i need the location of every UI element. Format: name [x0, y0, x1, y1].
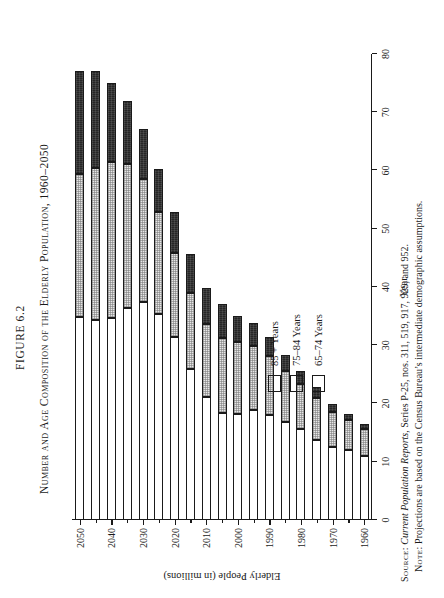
- value-axis-tick: [372, 461, 377, 462]
- bar-segment: [154, 314, 163, 520]
- bar-segment: [296, 429, 305, 520]
- bar-row: [281, 54, 290, 520]
- value-axis-tick-label: 60: [380, 166, 391, 176]
- bar-segment: [233, 414, 242, 520]
- category-axis-tick: [333, 520, 334, 525]
- bar-row: [139, 54, 148, 520]
- bar-segment: [186, 293, 195, 369]
- bar-segment: [139, 302, 148, 520]
- bar-row: [154, 54, 163, 520]
- bar-row: [123, 54, 132, 520]
- bar-segment: [360, 429, 369, 456]
- bar-segment: [139, 179, 148, 302]
- bar-row: [91, 54, 100, 520]
- note-line: Note: Projections are based on the Censu…: [412, 12, 426, 582]
- bar-segment: [170, 337, 179, 520]
- figure-title: Number and Age Composition of the Elderl…: [38, 144, 50, 494]
- source-detail: Series P-25, nos. 311, 519, 917, 929, an…: [399, 244, 410, 430]
- category-axis-tick: [364, 520, 365, 525]
- source-line: Source: Current Population Reports, Seri…: [398, 12, 412, 582]
- value-axis-tick: [372, 286, 377, 287]
- bar-segment: [281, 422, 290, 520]
- bar-row: [328, 54, 337, 520]
- bar-segment: [139, 129, 148, 179]
- bar-segment: [91, 168, 100, 320]
- category-axis-tick: [348, 520, 349, 523]
- value-axis-tick: [372, 402, 377, 403]
- chart-plot-area: 80706050403020100 1960197019801990200020…: [72, 54, 372, 520]
- bar-segment: [186, 254, 195, 292]
- source-label: Source:: [399, 547, 410, 582]
- bar-segment: [218, 338, 227, 413]
- bar-row: [202, 54, 211, 520]
- bar-segment: [107, 318, 116, 520]
- value-axis-tick-label: 50: [380, 224, 391, 234]
- bar-segment: [123, 308, 132, 520]
- y-axis-title: Elderly People (in millions): [164, 571, 281, 582]
- bar-segment: [123, 164, 132, 308]
- value-axis-tick-label: 80: [380, 49, 391, 59]
- bar-segment: [360, 424, 369, 429]
- bar-row: [249, 54, 258, 520]
- bar-row: [75, 54, 84, 520]
- bar-row: [233, 54, 242, 520]
- bar-segment: [154, 169, 163, 212]
- bar-segment: [249, 323, 258, 346]
- bar-segment: [186, 369, 195, 520]
- bar-segment: [107, 162, 116, 318]
- bar-segment: [249, 346, 258, 411]
- category-axis-tick: [285, 520, 286, 523]
- value-axis-tick: [372, 111, 377, 112]
- category-axis-tick-label: 1970: [327, 528, 338, 548]
- value-axis-tick-label: 40: [380, 282, 391, 292]
- bar-segment: [265, 415, 274, 520]
- bar-segment: [344, 450, 353, 520]
- legend-label: 85 + Years: [269, 321, 280, 366]
- legend-item: 75–84 Years: [290, 314, 303, 392]
- legend-item: 65–74 Years: [312, 314, 325, 392]
- bar-row: [312, 54, 321, 520]
- category-axis-tick: [222, 520, 223, 523]
- bar-row: [265, 54, 274, 520]
- bar-row: [218, 54, 227, 520]
- bar-row: [344, 54, 353, 520]
- bar-segment: [75, 174, 84, 317]
- category-axis-tick-label: 1990: [264, 528, 275, 548]
- source-title: Current Population Reports,: [399, 430, 410, 544]
- category-axis-tick-label: 2040: [106, 528, 117, 548]
- value-axis-tick: [372, 519, 377, 520]
- category-axis-tick-label: 2030: [138, 528, 149, 548]
- bar-segment: [170, 253, 179, 337]
- legend-swatch: [312, 375, 325, 392]
- bar-segment: [75, 317, 84, 520]
- value-axis-tick: [372, 228, 377, 229]
- category-axis-tick-label: 2020: [169, 528, 180, 548]
- bar-segment: [312, 440, 321, 520]
- bar-segment: [202, 288, 211, 324]
- figure-notes: Source: Current Population Reports, Seri…: [398, 12, 426, 582]
- bar-segment: [328, 412, 337, 448]
- category-axis-tick: [96, 520, 97, 523]
- value-axis-tick-label: 70: [380, 107, 391, 117]
- category-axis-tick: [143, 520, 144, 525]
- bar-segment: [91, 320, 100, 520]
- figure-page: FIGURE 6.2 Number and Age Composition of…: [0, 0, 444, 598]
- bar-row: [186, 54, 195, 520]
- category-axis-tick: [190, 520, 191, 523]
- bar-segment: [170, 212, 179, 253]
- category-axis-tick: [269, 520, 270, 525]
- category-axis-tick: [111, 520, 112, 525]
- legend-label: 65–74 Years: [313, 314, 324, 366]
- bar-segment: [312, 398, 321, 441]
- category-axis-tick: [254, 520, 255, 523]
- bar-segment: [218, 305, 227, 338]
- chart-legend: 85 + Years75–84 Years65–74 Years: [268, 314, 325, 392]
- value-axis-tick-label: 30: [380, 340, 391, 350]
- bar-segment: [154, 212, 163, 313]
- bar-segment: [202, 324, 211, 397]
- category-axis-tick-label: 1960: [359, 528, 370, 548]
- bar-segment: [328, 404, 337, 412]
- category-axis-tick: [301, 520, 302, 525]
- bar-row: [170, 54, 179, 520]
- category-axis-tick-label: 1980: [295, 528, 306, 548]
